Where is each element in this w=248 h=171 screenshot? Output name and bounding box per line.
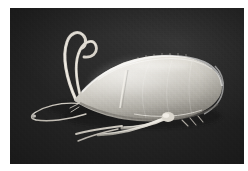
micrograph-plate <box>0 0 248 171</box>
dorsal-glint <box>130 62 190 70</box>
photo-frame <box>10 8 244 164</box>
limb-joint <box>162 112 175 122</box>
specimen-illustration <box>10 8 244 164</box>
